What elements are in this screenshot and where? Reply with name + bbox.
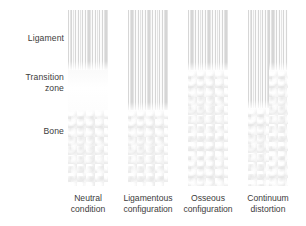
zone-ligament — [188, 10, 228, 70]
zone-ligament-deep — [248, 10, 269, 108]
zone-bone — [128, 110, 168, 186]
caption-ligamentous-configuration: Ligamentous configuration — [115, 193, 181, 215]
zone-ligament-shallow — [269, 10, 288, 70]
distortion-left-half — [248, 10, 269, 186]
distortion-right-half — [269, 10, 288, 186]
column-neutral-condition — [68, 10, 108, 186]
column-ligamentous-configuration — [128, 10, 168, 186]
caption-neutral-condition: Neutral condition — [55, 193, 121, 215]
zone-bone — [68, 110, 108, 186]
column-osseous-configuration — [188, 10, 228, 186]
row-label-transition-zone: Transition zone — [0, 72, 64, 93]
zone-transition — [68, 70, 108, 110]
row-label-ligament: Ligament — [0, 33, 64, 44]
zone-ligament — [128, 10, 168, 110]
zone-ligament — [68, 10, 108, 70]
caption-osseous-configuration: Osseous configuration — [175, 193, 241, 215]
zone-bone — [269, 70, 288, 186]
row-label-bone: Bone — [0, 126, 64, 137]
column-continuum-distortion — [248, 10, 288, 186]
zone-bone — [188, 70, 228, 186]
figure-canvas: Ligament Transition zone Bone — [0, 0, 306, 226]
caption-continuum-distortion: Continuum distortion — [235, 193, 301, 215]
zone-bone — [248, 108, 269, 186]
